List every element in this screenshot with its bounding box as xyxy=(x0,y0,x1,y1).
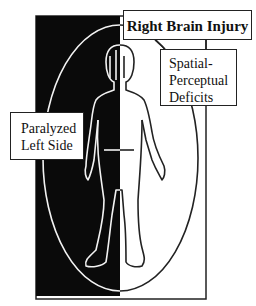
paralyzed-label-line-1: Paralyzed xyxy=(21,121,83,138)
title-label: Right Brain Injury xyxy=(127,18,249,34)
spatial-label-line-1: Spatial- xyxy=(169,56,236,73)
paralyzed-left-side-box: Paralyzed Left Side xyxy=(10,112,84,160)
spatial-label-line-3: Deficits xyxy=(169,90,236,107)
spatial-label-line-2: Perceptual xyxy=(169,73,236,90)
spatial-perceptual-deficits-box: Spatial- Perceptual Deficits xyxy=(160,49,237,106)
paralyzed-label-line-2: Left Side xyxy=(21,138,83,155)
title-box: Right Brain Injury xyxy=(123,10,252,40)
